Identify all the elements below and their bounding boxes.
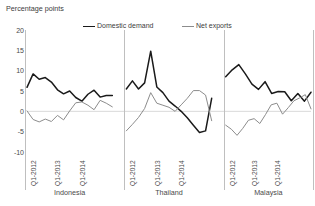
series-line-thailand-domestic-demand bbox=[126, 51, 211, 132]
x-tick-thailand-Q1-2013: Q1-2013 bbox=[154, 160, 161, 186]
x-tick-malaysia-Q1-2013: Q1-2013 bbox=[251, 160, 258, 186]
y-tick-15: 15 bbox=[4, 47, 24, 54]
x-tick-thailand-Q1-2014: Q1-2014 bbox=[178, 160, 185, 186]
legend-label: Domestic demand bbox=[97, 22, 153, 29]
panel-label-indonesia: Indonesia bbox=[27, 188, 112, 197]
x-axis-labels: Q1-2012Q1-2013Q1-2014Q1-2012Q1-2013Q1-20… bbox=[0, 152, 315, 192]
series-line-malaysia-net-exports bbox=[226, 95, 311, 136]
chart-container: Percentage points 20151050-5-10 Domestic… bbox=[0, 0, 315, 206]
legend-swatch-icon bbox=[83, 26, 95, 27]
plot-area bbox=[27, 30, 311, 152]
panel-label-malaysia: Malaysia bbox=[226, 188, 311, 197]
plot-svg bbox=[27, 30, 311, 152]
legend-label: Net exports bbox=[196, 22, 232, 29]
legend-swatch-icon bbox=[182, 26, 194, 27]
x-tick-malaysia-Q1-2012: Q1-2012 bbox=[229, 160, 236, 186]
y-tick-neg5: -5 bbox=[4, 128, 24, 135]
x-tick-indonesia-Q1-2014: Q1-2014 bbox=[79, 160, 86, 186]
series-line-malaysia-domestic-demand bbox=[226, 65, 311, 102]
y-tick-10: 10 bbox=[4, 67, 24, 74]
series-line-thailand-net-exports bbox=[126, 91, 211, 131]
y-tick-5: 5 bbox=[4, 88, 24, 95]
legend-item-net-exports: Net exports bbox=[182, 22, 232, 29]
series-line-indonesia-domestic-demand bbox=[27, 74, 112, 101]
legend-item-domestic-demand: Domestic demand bbox=[83, 22, 153, 29]
panel-separator-malaysia bbox=[224, 30, 225, 190]
panel-separator-indonesia bbox=[25, 30, 26, 190]
x-tick-indonesia-Q1-2012: Q1-2012 bbox=[30, 160, 37, 186]
panel-separator-right bbox=[313, 30, 314, 190]
x-tick-thailand-Q1-2012: Q1-2012 bbox=[129, 160, 136, 186]
x-tick-indonesia-Q1-2013: Q1-2013 bbox=[54, 160, 61, 186]
panel-separator-thailand bbox=[124, 30, 125, 190]
y-tick-0: 0 bbox=[4, 108, 24, 115]
panel-label-thailand: Thailand bbox=[126, 188, 211, 197]
x-tick-malaysia-Q1-2014: Q1-2014 bbox=[274, 160, 281, 186]
